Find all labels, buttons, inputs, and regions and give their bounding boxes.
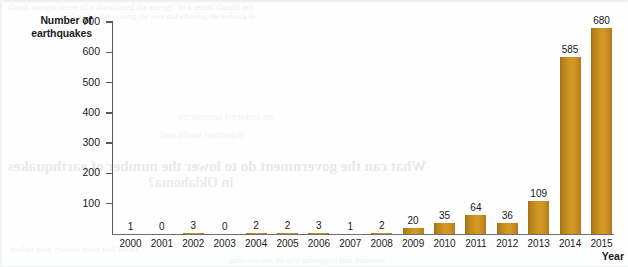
x-axis-line	[112, 234, 614, 235]
y-axis-tick-label: 100	[60, 197, 100, 209]
y-axis-tick	[106, 203, 113, 204]
bar[interactable]	[591, 28, 612, 234]
y-axis-tick-label: 400	[60, 106, 100, 118]
bar[interactable]	[403, 228, 424, 234]
y-axis-tick	[106, 142, 113, 143]
chart-figure: shock margin wave of a dominated the ene…	[0, 0, 628, 267]
ghost-text-line-1: shock margin wave of a dominated the ene…	[8, 2, 253, 12]
x-axis-title: Year	[540, 250, 624, 262]
ghost-text-line-8: pressure and triggering slip on pre-exis…	[230, 255, 385, 265]
scan-edge-top	[0, 0, 628, 3]
bar-value-label: 1	[115, 221, 146, 232]
bar-value-label: 109	[523, 188, 554, 199]
y-axis-tick-label: 200	[60, 166, 100, 178]
bar[interactable]	[246, 233, 267, 234]
bar[interactable]	[277, 233, 298, 234]
y-axis-tick	[106, 21, 113, 22]
x-axis-tick-label: 2015	[586, 238, 617, 249]
bar[interactable]	[528, 201, 549, 234]
y-axis-tick	[106, 112, 113, 113]
bar-value-label: 20	[398, 215, 429, 226]
x-axis-tick-label: 2009	[398, 238, 429, 249]
bar[interactable]	[371, 233, 392, 234]
x-axis-tick-label: 2005	[272, 238, 303, 249]
x-axis-tick-label: 2006	[303, 238, 334, 249]
x-axis-tick-label: 2000	[115, 238, 146, 249]
x-axis-tick-label: 2001	[146, 238, 177, 249]
bar[interactable]	[308, 233, 329, 234]
y-axis-tick	[106, 52, 113, 53]
bar[interactable]	[434, 223, 455, 234]
x-axis-tick-label: 2002	[178, 238, 209, 249]
x-axis-tick-label: 2010	[429, 238, 460, 249]
y-axis-tick-label: 600	[60, 45, 100, 57]
x-axis-tick-label: 2008	[366, 238, 397, 249]
x-axis-tick-label: 2003	[209, 238, 240, 249]
bar[interactable]	[497, 223, 518, 234]
y-axis-tick-label: 700	[60, 15, 100, 27]
y-axis-tick	[106, 173, 113, 174]
x-axis-tick-label: 2011	[460, 238, 491, 249]
bar-value-label: 35	[429, 210, 460, 221]
ghost-text-line-5: an induced seismicity	[178, 110, 273, 122]
ghost-text-line-4: in Oklahoma?	[148, 175, 233, 191]
y-axis-tick-label: 500	[60, 76, 100, 88]
x-axis-tick-label: 2004	[241, 238, 272, 249]
y-axis-tick	[106, 82, 113, 83]
bar[interactable]	[560, 57, 581, 234]
y-axis-tick-label: 300	[60, 136, 100, 148]
bar-value-label: 3	[303, 220, 334, 231]
bar-value-label: 3	[178, 220, 209, 231]
bar-value-label: 585	[555, 44, 586, 55]
bar[interactable]	[465, 215, 486, 234]
bar-value-label: 0	[146, 221, 177, 232]
bar[interactable]	[183, 233, 204, 234]
bar-value-label: 680	[586, 15, 617, 26]
x-axis-tick-label: 2007	[335, 238, 366, 249]
bar-value-label: 0	[209, 221, 240, 232]
x-axis-tick-label: 2014	[555, 238, 586, 249]
x-axis-tick-label: 2012	[492, 238, 523, 249]
scan-edge-left	[0, 0, 3, 267]
bar-value-label: 2	[366, 220, 397, 231]
bar-value-label: 64	[460, 202, 491, 213]
ghost-text-line-6: injection wells and	[160, 128, 243, 140]
bar-value-label: 36	[492, 210, 523, 221]
bar-value-label: 1	[335, 221, 366, 232]
bar-value-label: 2	[272, 220, 303, 231]
bar-value-label: 2	[241, 220, 272, 231]
x-axis-tick-label: 2013	[523, 238, 554, 249]
